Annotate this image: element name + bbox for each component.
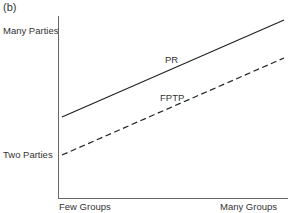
chart-plot: PR FPTP <box>0 0 292 213</box>
fptp-line-label: FPTP <box>160 92 184 103</box>
fptp-line <box>62 58 284 155</box>
pr-line-label: PR <box>165 54 178 65</box>
